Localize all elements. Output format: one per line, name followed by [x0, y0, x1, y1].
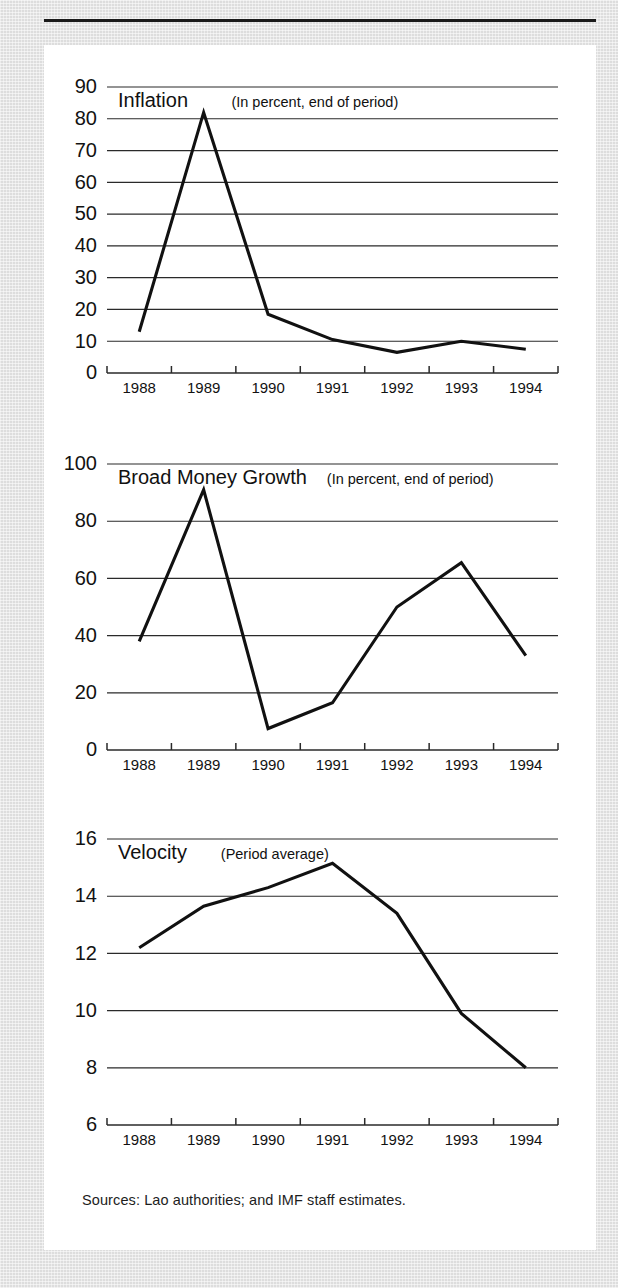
chart-svg-velocity: 68101214161988198919901991199219931994Ve…	[44, 825, 596, 1175]
y-axis-tick-label: 20	[75, 298, 97, 320]
x-axis-tick-label: 1991	[316, 1131, 349, 1148]
figure-card: 0102030405060708090198819891990199119921…	[44, 45, 596, 1250]
y-axis-tick-label: 60	[75, 171, 97, 193]
y-axis-tick-label: 0	[86, 738, 97, 760]
y-axis-tick-label: 80	[75, 509, 97, 531]
x-axis-tick-label: 1993	[445, 379, 478, 396]
y-axis-tick-label: 60	[75, 567, 97, 589]
chart-subtitle-broad-money-growth: (In percent, end of period)	[327, 471, 494, 487]
x-axis-tick-label: 1994	[509, 756, 542, 773]
x-axis-inflation	[107, 366, 558, 373]
chart-title-inflation: Inflation	[118, 89, 188, 111]
x-axis-tick-label: 1990	[251, 756, 284, 773]
series-line-inflation	[139, 112, 526, 352]
x-axis-labels-broad-money-growth: 1988198919901991199219931994	[123, 756, 543, 773]
source-note: Sources: Lao authorities; and IMF staff …	[82, 1192, 406, 1208]
x-axis-tick-label: 1992	[380, 1131, 413, 1148]
x-axis-tick-label: 1993	[445, 756, 478, 773]
y-axis-tick-label: 80	[75, 107, 97, 129]
x-axis-tick-label: 1989	[187, 1131, 220, 1148]
chart-subtitle-inflation: (In percent, end of period)	[231, 94, 398, 110]
x-axis-tick-label: 1994	[509, 1131, 542, 1148]
x-axis-tick-label: 1993	[445, 1131, 478, 1148]
y-axis-tick-label: 40	[75, 234, 97, 256]
y-axis-tick-label: 90	[75, 75, 97, 97]
y-axis-tick-label: 20	[75, 681, 97, 703]
gridlines-velocity: 6810121416	[75, 827, 558, 1135]
chart-panel-inflation: 0102030405060708090198819891990199119921…	[44, 73, 596, 423]
y-axis-tick-label: 0	[86, 361, 97, 383]
y-axis-tick-label: 70	[75, 139, 97, 161]
x-axis-tick-label: 1988	[123, 1131, 156, 1148]
y-axis-tick-label: 12	[75, 942, 97, 964]
chart-svg-inflation: 0102030405060708090198819891990199119921…	[44, 73, 596, 423]
x-axis-tick-label: 1990	[251, 1131, 284, 1148]
y-axis-tick-label: 16	[75, 827, 97, 849]
x-axis-tick-label: 1989	[187, 379, 220, 396]
y-axis-tick-label: 40	[75, 624, 97, 646]
y-axis-tick-label: 30	[75, 266, 97, 288]
gridlines-broad-money-growth: 020406080100	[64, 452, 558, 760]
x-axis-tick-label: 1988	[123, 756, 156, 773]
y-axis-tick-label: 10	[75, 330, 97, 352]
x-axis-tick-label: 1994	[509, 379, 542, 396]
series-line-velocity	[139, 863, 526, 1067]
header-rule	[44, 19, 596, 22]
chart-subtitle-velocity: (Period average)	[221, 846, 329, 862]
chart-svg-broad-money-growth: 0204060801001988198919901991199219931994…	[44, 450, 596, 800]
x-axis-tick-label: 1990	[251, 379, 284, 396]
chart-title-broad-money-growth: Broad Money Growth	[118, 466, 307, 488]
x-axis-tick-label: 1991	[316, 379, 349, 396]
y-axis-tick-label: 100	[64, 452, 97, 474]
x-axis-tick-label: 1991	[316, 756, 349, 773]
x-axis-broad-money-growth	[107, 743, 558, 750]
y-axis-tick-label: 8	[86, 1056, 97, 1078]
chart-panel-velocity: 68101214161988198919901991199219931994Ve…	[44, 825, 596, 1175]
y-axis-tick-label: 6	[86, 1113, 97, 1135]
x-axis-labels-velocity: 1988198919901991199219931994	[123, 1131, 543, 1148]
chart-panel-broad-money-growth: 0204060801001988198919901991199219931994…	[44, 450, 596, 800]
x-axis-tick-label: 1992	[380, 379, 413, 396]
x-axis-velocity	[107, 1118, 558, 1125]
y-axis-tick-label: 10	[75, 999, 97, 1021]
x-axis-labels-inflation: 1988198919901991199219931994	[123, 379, 543, 396]
x-axis-tick-label: 1988	[123, 379, 156, 396]
y-axis-tick-label: 14	[75, 884, 97, 906]
x-axis-tick-label: 1989	[187, 756, 220, 773]
gridlines-inflation: 0102030405060708090	[75, 75, 558, 383]
x-axis-tick-label: 1992	[380, 756, 413, 773]
chart-title-velocity: Velocity	[118, 841, 187, 863]
y-axis-tick-label: 50	[75, 202, 97, 224]
